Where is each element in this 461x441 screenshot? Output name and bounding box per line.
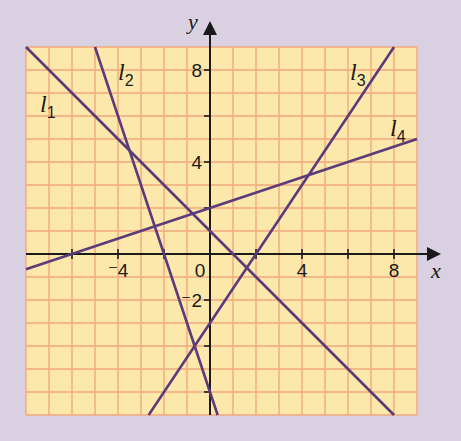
x-tick-label: ⁻4: [108, 260, 129, 281]
y-tick-label: 4: [191, 152, 202, 173]
y-axis-label: y: [186, 9, 198, 34]
y-tick-label: 8: [191, 60, 202, 81]
x-tick-label: 0: [195, 260, 206, 281]
y-tick-label: ⁻2: [181, 290, 202, 311]
x-tick-label: 4: [297, 260, 308, 281]
x-axis-label: x: [430, 258, 441, 283]
x-tick-label: 8: [389, 260, 400, 281]
y-axis-arrow-icon: [203, 21, 217, 35]
line-graph: ⁻4048⁻248 l1l2l3l4 x y: [0, 0, 461, 441]
